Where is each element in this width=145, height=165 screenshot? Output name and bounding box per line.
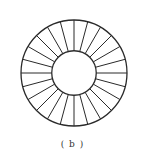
spoke-20 <box>85 27 100 54</box>
spoke-8 <box>48 92 63 119</box>
spoke-17 <box>60 22 68 52</box>
spoke-10 <box>28 84 55 99</box>
spoke-3 <box>90 89 112 111</box>
spoke-21 <box>90 36 112 58</box>
spoke-2 <box>93 84 120 99</box>
figure-caption: ( b ) <box>0 139 145 149</box>
spoke-7 <box>60 95 68 125</box>
spoke-13 <box>23 59 53 67</box>
spoke-9 <box>37 89 59 111</box>
spoke-11 <box>23 79 53 87</box>
spoke-23 <box>96 59 126 67</box>
spoke-5 <box>80 95 88 125</box>
spoke-16 <box>48 27 63 54</box>
spoke-19 <box>80 22 88 52</box>
spoke-4 <box>85 92 100 119</box>
inner-circle <box>52 51 97 96</box>
spoke-14 <box>28 47 55 62</box>
spoke-1 <box>96 79 126 87</box>
spoke-22 <box>93 47 120 62</box>
spoke-15 <box>37 36 59 58</box>
